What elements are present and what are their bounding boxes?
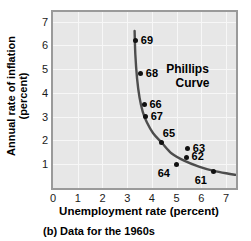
x-axis-tick-2: 2 [95,193,109,204]
data-point-label-61: 61 [195,175,207,186]
data-point-label-66: 66 [150,99,162,110]
x-axis-tick-4: 4 [145,193,159,204]
data-point-label-69: 69 [141,35,153,46]
y-axis-title-line-2: (percent) [17,36,29,156]
chart-figure: Annual rate of inflation(percent) 123456… [0,0,251,241]
y-axis-tick-1: 1 [34,159,48,170]
annotation-line-2: Curve [166,76,210,90]
phillips-curve-annotation: Phillips Curve [166,62,210,90]
x-axis-title: Unemployment rate (percent) [34,205,244,217]
y-axis-tick-4: 4 [34,88,48,99]
data-point-label-62: 62 [192,151,204,162]
data-point-62 [184,155,189,160]
data-point-label-64: 64 [158,168,170,179]
y-axis-tick-2: 2 [34,135,48,146]
data-point-label-67: 67 [151,111,163,122]
y-axis-tick-3: 3 [34,112,48,123]
plot-area: 696866676563626461 Phillips Curve [51,10,238,190]
y-axis-tick-6: 6 [34,40,48,51]
x-axis-tick-1: 1 [71,193,85,204]
x-axis-tick-5: 5 [170,193,184,204]
y-axis-title: Annual rate of inflation(percent) [0,0,34,192]
data-point-64 [174,162,179,167]
x-axis-tick-0: 0 [46,193,60,204]
x-axis-tick-6: 6 [194,193,208,204]
x-axis-tick-3: 3 [120,193,134,204]
data-point-label-65: 65 [163,128,175,139]
y-axis-tick-7: 7 [34,17,48,28]
figure-caption: (b) Data for the 1960s [43,225,155,237]
x-axis-tick-7: 7 [219,193,233,204]
y-axis-title-text: Annual rate of inflation(percent) [5,36,29,156]
y-axis-tick-5: 5 [34,64,48,75]
annotation-line-1: Phillips [166,62,209,76]
y-axis-title-line-1: Annual rate of inflation [5,36,17,156]
data-point-label-68: 68 [146,68,158,79]
